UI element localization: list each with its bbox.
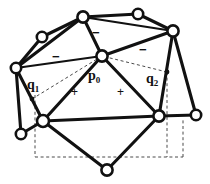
label-q1-base: q: [27, 77, 35, 92]
edge-v6-v8: [43, 116, 159, 121]
vertex-top-right-outer: [133, 9, 143, 19]
edge-v5-v8: [102, 56, 159, 116]
minus-sign-0: −: [52, 50, 60, 63]
mesh-diagram-canvas: [0, 0, 210, 184]
vertex-right-bottom-outer: [191, 110, 201, 120]
label-p0-base: p: [88, 68, 96, 83]
edge-v4-v5: [102, 31, 173, 56]
vertex-left-outer: [11, 63, 21, 73]
mesh-vertices: [11, 9, 201, 176]
label-p0-subscript: 0: [96, 75, 101, 85]
vertex-lower-left-hub: [37, 115, 49, 127]
q1-sample-dot: [30, 97, 35, 102]
minus-sign-2: −: [139, 43, 147, 56]
label-q2: q2: [146, 72, 158, 86]
minus-sign-1: −: [92, 26, 100, 39]
plus-sign-0: +: [71, 86, 78, 98]
vertex-top-center: [77, 11, 88, 22]
q2-sample-dot: [165, 70, 170, 75]
vertex-bottom-center: [101, 164, 112, 175]
mesh-figure: p0 q1 q2 ++−−−: [0, 0, 210, 184]
label-q2-base: q: [146, 71, 154, 86]
dashed-edge-1: [102, 56, 167, 72]
edge-v2-v3: [83, 14, 138, 17]
edge-v6-v10: [43, 121, 107, 170]
edge-v4-v9: [173, 31, 196, 115]
edge-v8-v10: [107, 116, 159, 170]
vertex-top-left-outer: [37, 32, 47, 42]
vertex-center-p0: [96, 50, 107, 61]
label-q2-subscript: 2: [154, 78, 159, 88]
label-q1-subscript: 1: [35, 84, 40, 94]
vertex-left-bottom-outer: [16, 129, 26, 139]
vertex-right-upper: [167, 25, 178, 36]
plus-sign-1: +: [117, 86, 124, 98]
label-q1: q1: [27, 78, 39, 92]
label-p0: p0: [88, 69, 100, 83]
vertex-lower-right-hub: [153, 110, 164, 121]
